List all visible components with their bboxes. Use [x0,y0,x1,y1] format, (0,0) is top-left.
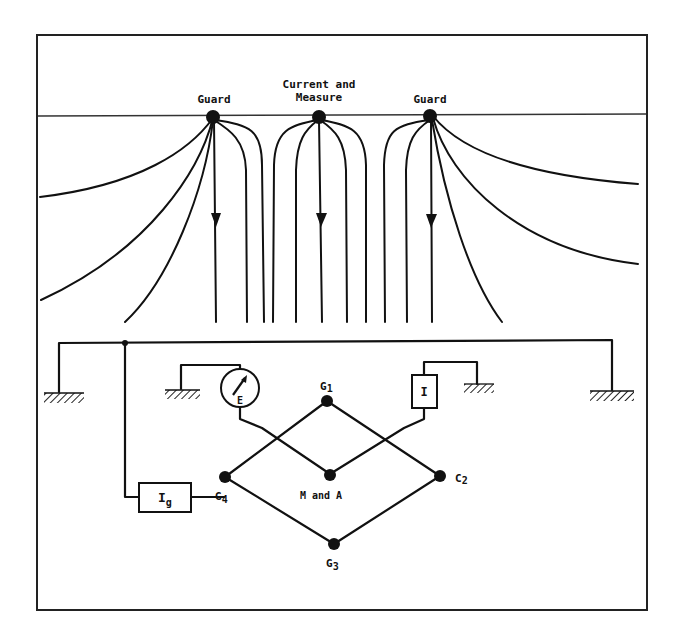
label-left-guard: Guard [197,93,230,106]
arrow-down-left [211,213,221,227]
label-measure: Measure [296,91,343,104]
field-lines-left-guard [40,118,264,322]
node-g3 [328,538,340,550]
label-g2: C2 [455,472,468,486]
electrode-diagram: Guard Current and Measure Guard [0,0,676,633]
label-meter-e: E [237,395,243,406]
label-g4: G4 [215,490,228,505]
label-g1: G1 [320,380,333,394]
label-g3: G3 [326,557,339,572]
node-m-and-a [324,469,336,481]
node-g4 [219,471,231,483]
arrow-down-center [316,213,327,227]
node-g1 [321,395,333,407]
left-guard-electrode [206,110,220,124]
label-current-and: Current and [283,78,356,91]
figure-frame [37,35,647,610]
label-right-guard: Guard [413,93,446,106]
field-lines-right-guard [384,116,638,322]
label-m-and-a: M and A [300,490,342,501]
label-current-i: I [420,385,427,399]
ground-surface-line [38,114,646,116]
earth-bus [44,340,634,403]
right-guard-electrode [423,109,437,123]
arrow-down-right [426,214,437,228]
node-g2 [434,470,446,482]
center-electrode [312,110,326,124]
